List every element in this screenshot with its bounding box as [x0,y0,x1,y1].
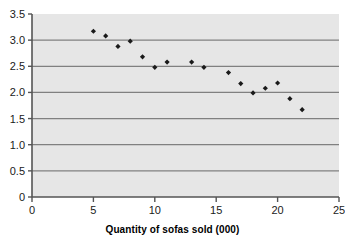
x-axis-title: Quantity of sofas sold (000) [0,224,345,235]
y-tick-label: 0.5 [10,165,25,177]
y-tick-label: 1.5 [10,113,25,125]
x-tick-label: 5 [90,204,96,216]
x-tick-label: 20 [271,204,283,216]
y-tick-label: 2.5 [10,60,25,72]
x-tick-label: 25 [333,204,345,216]
x-tick-label: 10 [149,204,161,216]
y-tick-label: 3.5 [10,8,25,20]
scatter-chart: 00.51.01.52.02.53.03.505101520255, 3.176… [0,0,345,245]
y-tick-label: 1.0 [10,139,25,151]
y-tick-label: 0 [19,191,25,203]
chart-canvas: 00.51.01.52.02.53.03.505101520255, 3.176… [0,0,345,245]
y-axis-ticks: 00.51.01.52.02.53.03.5 [10,8,32,203]
y-tick-label: 3.0 [10,34,25,46]
x-axis-ticks: 0510152025 [29,197,345,216]
x-tick-label: 0 [29,204,35,216]
plot-area-background [32,14,339,197]
x-tick-label: 15 [210,204,222,216]
y-tick-label: 2.0 [10,86,25,98]
